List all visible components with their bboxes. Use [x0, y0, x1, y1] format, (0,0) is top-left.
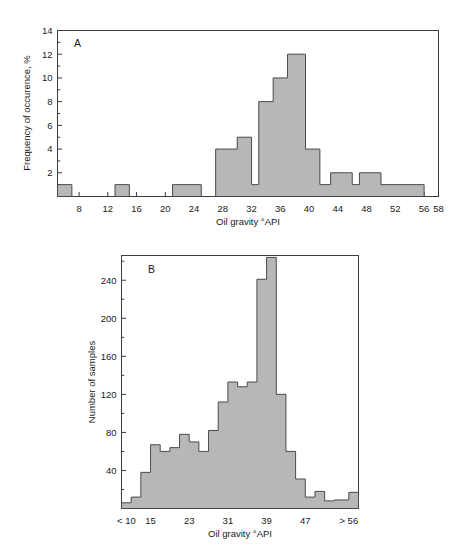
x-tick-label: 44 — [333, 203, 344, 214]
y-tick-label: 120 — [101, 389, 117, 400]
x-tick-label: 28 — [218, 203, 229, 214]
x-tick-label: 47 — [300, 515, 311, 526]
x-tick-label: 8 — [76, 203, 81, 214]
x-tick-label: 58 — [433, 203, 444, 214]
figure-container: 812162024283236404448525658 2468101214 A… — [0, 0, 458, 555]
panel-a-letter: A — [74, 37, 81, 49]
panel-b-y-ticks: 4080120160200240 — [101, 261, 126, 489]
x-tick-label: > 56 — [339, 515, 358, 526]
chart-panel-a: 812162024283236404448525658 2468101214 A… — [0, 0, 458, 240]
x-tick-label: 56 — [419, 203, 430, 214]
x-tick-label: 40 — [304, 203, 315, 214]
y-tick-label: 2 — [47, 167, 52, 178]
y-tick-label: 14 — [42, 25, 53, 36]
x-tick-label: 32 — [246, 203, 257, 214]
y-tick-label: 4 — [47, 143, 52, 154]
x-tick-label: 39 — [261, 515, 272, 526]
x-tick-label: 12 — [103, 203, 114, 214]
y-tick-label: 40 — [106, 465, 117, 476]
panel-b-x-axis-title: Oil gravity °API — [208, 528, 272, 539]
panel-a-y-ticks: 2468101214 — [42, 25, 62, 185]
x-tick-label: 23 — [184, 515, 195, 526]
panel-a-y-axis-title: Frequency of occurence, % — [21, 55, 32, 171]
panel-a-plot-area: 812162024283236404448525658 2468101214 A… — [21, 25, 444, 227]
panel-b-letter: B — [148, 263, 155, 275]
panel-b-y-axis-title: Number of samples — [86, 341, 97, 424]
x-tick-label: 16 — [131, 203, 142, 214]
y-tick-label: 200 — [101, 313, 117, 324]
x-tick-label: 36 — [275, 203, 286, 214]
x-tick-label: 15 — [145, 515, 156, 526]
panel-a-bars — [58, 54, 425, 196]
x-tick-label: 31 — [223, 515, 234, 526]
y-tick-label: 240 — [101, 275, 117, 286]
y-tick-label: 12 — [42, 49, 53, 60]
x-tick-label: 48 — [361, 203, 372, 214]
y-tick-label: 80 — [106, 427, 117, 438]
x-tick-label: 24 — [189, 203, 200, 214]
x-tick-label: 52 — [390, 203, 401, 214]
y-tick-label: 6 — [47, 120, 52, 131]
y-tick-label: 10 — [42, 72, 53, 83]
x-tick-label: 20 — [160, 203, 171, 214]
panel-b-bars — [122, 257, 359, 508]
y-tick-label: 160 — [101, 351, 117, 362]
x-tick-label: < 10 — [117, 515, 136, 526]
y-tick-label: 8 — [47, 96, 52, 107]
panel-a-x-axis-title: Oil gravity °API — [216, 216, 280, 227]
chart-panel-b: < 101523313947> 56 4080120160200240 B Oi… — [0, 240, 458, 555]
panel-b-plot-area: < 101523313947> 56 4080120160200240 B Oi… — [86, 256, 359, 540]
